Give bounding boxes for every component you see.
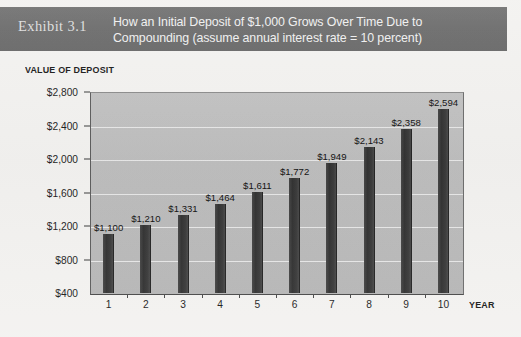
x-axis-tick-mark	[164, 294, 165, 298]
x-axis-tick-mark	[276, 294, 277, 298]
x-axis-tick-label: 5	[255, 299, 261, 310]
exhibit-title-line-1: How an Initial Deposit of $1,000 Grows O…	[113, 15, 498, 31]
exhibit-title-line-2: Compounding (assume annual interest rate…	[113, 31, 498, 47]
x-axis-tick-mark	[202, 294, 203, 298]
x-axis-tick-label: 9	[403, 299, 409, 310]
bar-value-label: $1,210	[131, 213, 160, 224]
bar-value-label: $1,100	[94, 222, 123, 233]
bar	[326, 163, 337, 293]
y-axis-tick-label: $2,400	[16, 120, 78, 131]
y-axis-tick-label: $400	[16, 288, 78, 299]
y-axis-tick-label: $1,600	[16, 187, 78, 198]
x-axis-tick-label: 3	[180, 299, 186, 310]
x-axis-tick-label: 6	[292, 299, 298, 310]
y-axis-tick-mark	[84, 92, 90, 93]
bar-value-label: $2,594	[429, 97, 458, 108]
x-axis-tick-mark	[313, 294, 314, 298]
exhibit-title: How an Initial Deposit of $1,000 Grows O…	[113, 15, 498, 46]
y-axis-tick-mark	[84, 259, 90, 260]
y-axis-tick-mark	[84, 159, 90, 160]
y-axis-tick-mark	[84, 125, 90, 126]
bar	[140, 225, 151, 293]
x-axis-tick-label: 8	[366, 299, 372, 310]
x-axis-tick-label: 1	[106, 299, 112, 310]
x-axis-tick-label: 4	[217, 299, 223, 310]
exhibit-number-label: Exhibit 3.1	[18, 18, 87, 35]
bar	[215, 204, 226, 293]
y-axis-title: VALUE OF DEPOSIT	[25, 64, 114, 75]
x-axis-tick-mark	[127, 294, 128, 298]
exhibit-figure: Exhibit 3.1 How an Initial Deposit of $1…	[0, 0, 521, 337]
x-axis-tick-mark	[425, 294, 426, 298]
x-axis-tick-mark	[239, 294, 240, 298]
x-axis-tick-label: 10	[438, 299, 449, 310]
bar	[438, 109, 449, 293]
y-axis-tick-label: $800	[16, 254, 78, 265]
y-axis-tick-label: $2,800	[16, 87, 78, 98]
x-axis-tick-mark	[350, 294, 351, 298]
bar	[178, 215, 189, 293]
bar	[252, 192, 263, 293]
x-axis-title: YEAR	[469, 299, 495, 310]
y-axis-tick-mark	[84, 226, 90, 227]
y-axis-tick-label: $1,200	[16, 221, 78, 232]
bar-value-label: $2,358	[392, 117, 421, 128]
y-axis-tick-mark	[84, 192, 90, 193]
bar	[289, 178, 300, 293]
bar-value-label: $1,331	[168, 203, 197, 214]
bar	[401, 129, 412, 293]
y-axis-tick-label: $2,000	[16, 154, 78, 165]
x-axis-tick-label: 2	[143, 299, 149, 310]
x-axis-tick-mark	[388, 294, 389, 298]
x-axis-tick-label: 7	[329, 299, 335, 310]
bar-value-label: $1,464	[206, 192, 235, 203]
exhibit-header-band: Exhibit 3.1 How an Initial Deposit of $1…	[0, 7, 507, 51]
bar-value-label: $1,949	[317, 151, 346, 162]
bar	[103, 234, 114, 293]
bar-value-label: $1,772	[280, 166, 309, 177]
bar-value-label: $2,143	[354, 135, 383, 146]
bar-value-label: $1,611	[243, 180, 272, 191]
bar	[364, 147, 375, 293]
